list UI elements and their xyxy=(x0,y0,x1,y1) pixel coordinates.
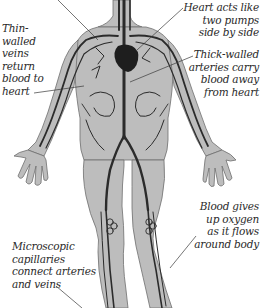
label-line: and veins xyxy=(12,278,96,291)
label-heart: Heart acts like two pumps side by side xyxy=(183,1,259,39)
label-line: from heart xyxy=(189,86,259,99)
label-capillaries: Microscopic capillaries connect arteries… xyxy=(12,240,96,290)
label-line: two pumps xyxy=(183,14,259,27)
label-line: Thin- xyxy=(2,22,44,35)
label-line: veins xyxy=(2,47,44,60)
label-line: as it flows xyxy=(194,225,259,238)
circulatory-system-diagram: Thin- walled veins return blood to heart… xyxy=(0,0,261,308)
label-line: return xyxy=(2,60,44,73)
label-line: walled xyxy=(2,35,44,48)
label-line: connect arteries xyxy=(12,265,96,278)
label-line: Blood gives xyxy=(194,200,259,213)
label-line: Microscopic xyxy=(12,240,96,253)
label-line: blood away xyxy=(189,73,259,86)
label-line: side by side xyxy=(183,26,259,39)
label-line: Thick-walled xyxy=(189,48,259,61)
label-oxygen: Blood gives up oxygen as it flows around… xyxy=(194,200,259,250)
label-line: around body xyxy=(194,238,259,251)
label-line: capillaries xyxy=(12,253,96,266)
label-line: up oxygen xyxy=(194,213,259,226)
label-line: blood to xyxy=(2,72,44,85)
label-line: arteries carry xyxy=(189,61,259,74)
label-veins: Thin- walled veins return blood to heart xyxy=(2,22,44,97)
label-arteries: Thick-walled arteries carry blood away f… xyxy=(189,48,259,98)
label-line: heart xyxy=(2,85,44,98)
label-line: Heart acts like xyxy=(183,1,259,14)
